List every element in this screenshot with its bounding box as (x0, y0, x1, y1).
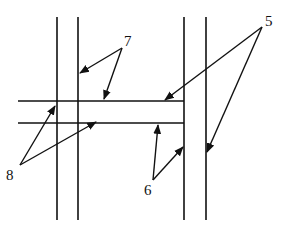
leader-arrows-7 (80, 48, 122, 99)
label-7: 7 (124, 34, 132, 49)
label-8: 8 (6, 168, 14, 183)
leader-arrows-6 (153, 125, 183, 180)
leader-arrows-5 (165, 27, 262, 152)
label-5: 5 (265, 14, 273, 29)
horizontal-pair (18, 101, 184, 123)
right-vertical-pair (184, 17, 206, 220)
left-vertical-pair (57, 17, 78, 220)
label-6: 6 (144, 183, 152, 198)
leader-arrows-8 (20, 106, 96, 165)
